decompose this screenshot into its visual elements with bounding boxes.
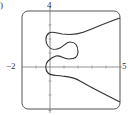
x-min-label: −2 (6, 62, 16, 71)
y-max-label: 4 (47, 1, 52, 10)
y-min-label: − (48, 108, 52, 115)
curve-path (46, 18, 120, 102)
plot-area (0, 0, 128, 115)
x-max-label: 5 (122, 62, 127, 71)
